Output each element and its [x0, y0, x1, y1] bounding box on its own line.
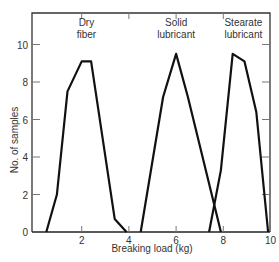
series-line [209, 54, 268, 232]
series-lines [46, 54, 268, 232]
y-axis-label: No. of samples [9, 107, 20, 174]
series-line [46, 61, 126, 232]
series-labels: DryfiberSolidlubricantStearatelubricant [77, 17, 263, 40]
series-label: Stearate [224, 17, 262, 28]
y-tick-label: 2 [22, 190, 28, 201]
series-label: lubricant [157, 29, 195, 40]
breaking-load-chart: 2468100246810 DryfiberSolidlubricantStea… [0, 0, 279, 262]
series-label: lubricant [224, 29, 262, 40]
y-tick-label: 4 [22, 152, 28, 163]
series-label: Dry [79, 17, 95, 28]
y-tick-label: 8 [22, 77, 28, 88]
frame-border [32, 13, 270, 232]
series-label: Solid [165, 17, 187, 28]
x-axis-label: Breaking load (kg) [111, 243, 192, 254]
series-line [141, 54, 221, 232]
x-tick-label: 8 [221, 235, 227, 246]
y-tick-label: 10 [17, 40, 29, 51]
x-tick-label: 10 [265, 235, 277, 246]
x-tick-label: 2 [79, 235, 85, 246]
plot-frame [32, 13, 270, 232]
series-label: fiber [77, 29, 97, 40]
y-tick-label: 6 [22, 115, 28, 126]
axis-ticks: 2468100246810 [17, 13, 277, 246]
y-tick-label: 0 [22, 227, 28, 238]
